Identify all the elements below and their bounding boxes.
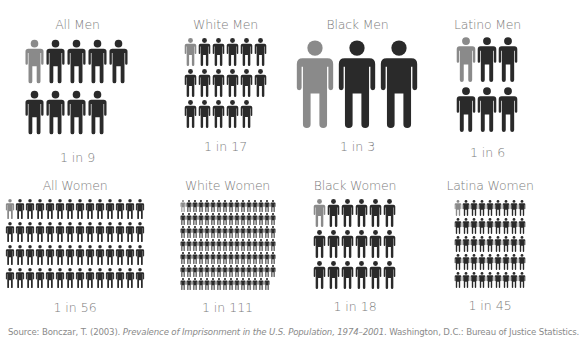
person-icon — [212, 69, 225, 97]
person-icon — [75, 245, 85, 265]
person-icon — [270, 213, 276, 225]
person-icon — [55, 245, 65, 265]
person-icon — [462, 272, 470, 288]
person-icon — [518, 272, 526, 288]
person-icon — [109, 38, 128, 85]
panel-all-women: All Women 1 in 56 — [0, 178, 150, 315]
person-icon — [478, 218, 486, 234]
person-icon — [270, 239, 276, 251]
person-icon — [470, 254, 478, 270]
person-icon — [25, 245, 35, 265]
person-icon — [25, 268, 35, 288]
pictogram-grid — [456, 37, 519, 137]
person-icon — [15, 222, 25, 242]
group-ratio: 1 in 9 — [60, 150, 95, 165]
person-icon — [270, 265, 276, 277]
person-icon — [341, 199, 354, 227]
group-ratio: 1 in 18 — [333, 299, 376, 314]
person-icon — [470, 218, 478, 234]
person-icon — [327, 261, 340, 289]
person-icon — [125, 222, 135, 242]
person-icon — [75, 268, 85, 288]
person-icon — [470, 236, 478, 252]
person-icon — [383, 199, 396, 227]
group-title: White Men — [193, 17, 258, 32]
person-icon — [518, 218, 526, 234]
person-icon — [498, 87, 518, 132]
person-icon — [518, 236, 526, 252]
person-icon — [55, 199, 65, 219]
source-suffix: . Washington, D.C.: Bureau of Justice St… — [384, 327, 579, 337]
person-icon — [494, 200, 502, 216]
person-icon — [125, 268, 135, 288]
person-icon — [462, 236, 470, 252]
person-icon-highlighted — [454, 200, 462, 216]
group-ratio: 1 in 45 — [468, 298, 511, 313]
person-icon — [55, 222, 65, 242]
person-icon — [115, 199, 125, 219]
person-icon — [105, 268, 115, 288]
person-icon-highlighted — [295, 40, 335, 128]
person-icon — [226, 38, 239, 66]
person-icon — [518, 200, 526, 216]
pictogram-grid — [180, 200, 276, 291]
person-icon — [75, 222, 85, 242]
person-icon — [477, 87, 497, 132]
panel-black-women: Black Women 1 in 18 — [305, 178, 405, 314]
source-prefix: Source: Bonczar, T. (2003). — [8, 327, 123, 337]
person-icon — [327, 230, 340, 258]
person-icon — [454, 272, 462, 288]
group-ratio: 1 in 3 — [340, 139, 375, 154]
person-icon — [240, 100, 253, 128]
person-icon — [462, 200, 470, 216]
person-icon-highlighted — [313, 199, 326, 227]
group-ratio: 1 in 111 — [202, 300, 253, 315]
person-icon — [226, 100, 239, 128]
person-icon — [494, 254, 502, 270]
person-icon — [5, 245, 15, 265]
person-icon — [105, 245, 115, 265]
person-icon — [264, 278, 270, 290]
person-icon — [478, 236, 486, 252]
person-icon — [125, 245, 135, 265]
person-icon — [337, 40, 377, 128]
person-icon — [5, 222, 15, 242]
person-icon — [270, 200, 276, 212]
person-icon — [85, 245, 95, 265]
panel-white-women: White Women 1 in 111 — [175, 178, 280, 315]
person-icon — [518, 254, 526, 270]
person-icon — [45, 222, 55, 242]
source-title: Prevalence of Imprisonment in the U.S. P… — [123, 327, 384, 337]
group-title: Black Women — [314, 178, 396, 193]
person-icon — [15, 268, 25, 288]
person-icon — [462, 254, 470, 270]
person-icon — [369, 199, 382, 227]
group-ratio: 1 in 56 — [53, 300, 96, 315]
person-icon — [502, 236, 510, 252]
person-icon — [85, 222, 95, 242]
panel-latina-women: Latina Women 1 in 45 — [435, 178, 545, 313]
person-icon — [254, 38, 267, 66]
group-title: All Men — [55, 17, 99, 32]
person-icon — [85, 199, 95, 219]
person-icon — [254, 69, 267, 97]
person-icon — [15, 245, 25, 265]
person-icon — [486, 254, 494, 270]
person-icon — [383, 230, 396, 258]
person-icon — [510, 272, 518, 288]
person-icon — [502, 200, 510, 216]
pictogram-grid — [454, 200, 526, 290]
person-icon — [198, 100, 211, 128]
person-icon — [498, 37, 518, 82]
person-icon — [313, 261, 326, 289]
person-icon — [125, 199, 135, 219]
group-title: All Women — [43, 178, 108, 193]
person-icon — [95, 245, 105, 265]
pictogram-grid — [295, 40, 421, 128]
person-icon — [502, 272, 510, 288]
person-icon — [45, 268, 55, 288]
person-icon — [67, 89, 86, 136]
person-icon — [470, 200, 478, 216]
person-icon — [88, 89, 107, 136]
group-ratio: 1 in 6 — [470, 145, 505, 160]
